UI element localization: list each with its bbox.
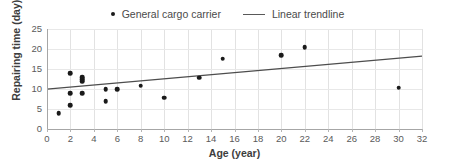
x-axis-title: Age (year) xyxy=(47,148,422,159)
data-point xyxy=(68,71,73,76)
data-point xyxy=(279,53,284,58)
x-tick-mark xyxy=(328,129,329,132)
x-tick-mark xyxy=(422,129,423,132)
x-tick-label: 22 xyxy=(300,134,311,144)
data-point xyxy=(162,96,167,101)
legend-label-linear-trendline: Linear trendline xyxy=(272,9,344,20)
data-point xyxy=(197,76,202,81)
data-point xyxy=(396,86,401,91)
y-tick-label: 15 xyxy=(31,64,42,74)
scatter-chart: General cargo carrier Linear trendline 0… xyxy=(0,0,455,167)
data-point xyxy=(56,111,61,116)
x-tick-mark xyxy=(258,129,259,132)
y-tick-label: 5 xyxy=(37,104,42,114)
data-point xyxy=(115,87,120,92)
x-tick-mark xyxy=(164,129,165,132)
x-tick-mark xyxy=(188,129,189,132)
x-tick-label: 2 xyxy=(68,134,73,144)
x-tick-mark xyxy=(305,129,306,132)
x-tick-mark xyxy=(235,129,236,132)
data-point xyxy=(68,103,73,108)
x-tick-label: 0 xyxy=(44,134,49,144)
x-tick-mark xyxy=(70,129,71,132)
x-tick-label: 32 xyxy=(417,134,428,144)
x-tick-label: 12 xyxy=(182,134,193,144)
x-tick-label: 20 xyxy=(276,134,287,144)
x-tick-label: 4 xyxy=(91,134,96,144)
data-point xyxy=(303,45,308,50)
x-tick-label: 14 xyxy=(206,134,217,144)
x-tick-mark xyxy=(399,129,400,132)
x-tick-mark xyxy=(352,129,353,132)
y-tick-label: 0 xyxy=(37,124,42,134)
legend-label-general-cargo-carrier: General cargo carrier xyxy=(122,9,221,20)
x-tick-label: 6 xyxy=(115,134,120,144)
vertical-gridline xyxy=(422,29,423,129)
x-tick-label: 16 xyxy=(229,134,240,144)
data-point xyxy=(80,91,85,96)
x-tick-mark xyxy=(94,129,95,132)
x-tick-label: 28 xyxy=(370,134,381,144)
data-point xyxy=(68,91,73,96)
x-tick-label: 18 xyxy=(253,134,264,144)
x-axis-ticks: 02468101214161820222426283032 xyxy=(47,134,422,147)
data-point xyxy=(220,56,225,61)
x-tick-label: 8 xyxy=(138,134,143,144)
trendline-marker-icon xyxy=(243,14,265,15)
chart-legend: General cargo carrier Linear trendline xyxy=(0,4,455,24)
y-tick-label: 25 xyxy=(31,24,42,34)
x-tick-label: 30 xyxy=(393,134,404,144)
x-tick-label: 10 xyxy=(159,134,170,144)
plot-area xyxy=(47,29,422,129)
y-tick-label: 20 xyxy=(31,44,42,54)
x-tick-mark xyxy=(375,129,376,132)
x-tick-label: 24 xyxy=(323,134,334,144)
x-tick-mark xyxy=(141,129,142,132)
y-axis-line xyxy=(47,29,48,130)
x-tick-label: 26 xyxy=(346,134,357,144)
data-point xyxy=(138,84,143,89)
x-tick-mark xyxy=(47,129,48,132)
data-point xyxy=(103,87,108,92)
data-point xyxy=(103,99,108,104)
legend-entry-general-cargo-carrier: General cargo carrier xyxy=(111,9,221,20)
x-tick-mark xyxy=(211,129,212,132)
y-axis-title: Repairing time (day) xyxy=(11,0,22,110)
scatter-marker-icon xyxy=(111,12,115,16)
x-tick-mark xyxy=(117,129,118,132)
data-point xyxy=(80,75,85,80)
legend-entry-linear-trendline: Linear trendline xyxy=(243,9,344,20)
y-tick-label: 10 xyxy=(31,84,42,94)
x-tick-mark xyxy=(281,129,282,132)
linear-trendline xyxy=(47,29,422,129)
